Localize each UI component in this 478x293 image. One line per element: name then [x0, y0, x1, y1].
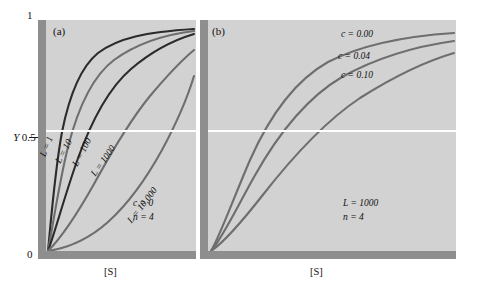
- panel-a-plot-area: [46, 20, 196, 251]
- curve-label-c-000: c = 0.00: [341, 29, 373, 39]
- panel-a: [38, 20, 196, 259]
- panel-b-letter: (b): [212, 25, 225, 37]
- y-axis-tick-top: 1: [27, 9, 33, 21]
- y-axis-half-tick-mark: [29, 137, 38, 138]
- panel-b-x-axis-bar: [200, 251, 456, 259]
- panel-a-half-gridline: [46, 130, 196, 132]
- curve-c-004: [211, 41, 454, 251]
- panel-b: [200, 20, 456, 259]
- panel-a-parameters: c = 0 n = 4: [133, 197, 154, 225]
- panel-b-curves: [208, 20, 456, 251]
- y-axis-variable-label: Y: [13, 131, 21, 143]
- panel-a-param-n: n = 4: [133, 211, 154, 225]
- panel-b-y-axis-bar: [200, 20, 208, 259]
- panel-a-x-axis-label: [S]: [104, 266, 117, 277]
- panel-b-parameters: L = 1000 n = 4: [343, 197, 378, 225]
- panel-b-plot-area: [208, 20, 456, 251]
- panel-a-x-axis-bar: [38, 251, 196, 259]
- panel-b-half-gridline: [208, 130, 456, 132]
- panel-b-param-n: n = 4: [343, 211, 378, 225]
- curve-label-c-010: c = 0.10: [341, 70, 373, 80]
- panel-b-param-L: L = 1000: [343, 197, 378, 211]
- panel-a-param-c: c = 0: [133, 197, 154, 211]
- panel-b-x-axis-label: [S]: [310, 266, 323, 277]
- curve-label-c-004: c = 0.04: [338, 51, 370, 61]
- y-axis-tick-bottom: 0: [27, 248, 33, 260]
- panel-a-letter: (a): [53, 25, 65, 37]
- figure-root: 1 Y0.5 0 (a) L = 1 L = 10 L =: [0, 0, 478, 293]
- panel-a-curves: [46, 20, 196, 251]
